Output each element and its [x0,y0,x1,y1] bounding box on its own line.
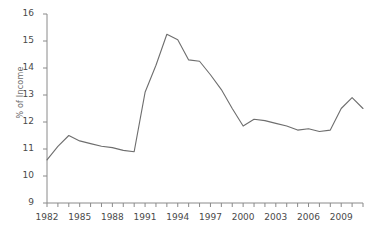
data-series-line [47,34,363,160]
line-chart: % of Income 161514131211109 198219851988… [0,0,370,242]
chart-plot-area [0,0,370,242]
chart-axes [43,14,363,207]
